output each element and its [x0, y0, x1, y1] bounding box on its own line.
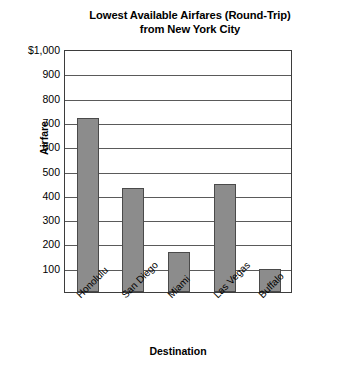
plot-area: [64, 50, 292, 293]
y-axis-tick-label: 600: [0, 142, 60, 153]
x-axis-tick-labels: HonoluluSan DiegoMiamiLas VegasBuffalo: [64, 293, 292, 353]
chart-title-line-2: from New York City: [40, 22, 340, 36]
x-axis-title: Destination: [64, 345, 292, 357]
y-axis-tick-label: 500: [0, 166, 60, 177]
bars: [65, 51, 291, 292]
y-axis-tick-label: 300: [0, 215, 60, 226]
y-axis-tick-label: 100: [0, 263, 60, 274]
y-axis-tick-label: 700: [0, 118, 60, 129]
y-axis-tick-label: 800: [0, 93, 60, 104]
bar: [77, 118, 99, 292]
y-axis-tick-label: $1,000: [0, 45, 60, 56]
chart-title: Lowest Available Airfares (Round-Trip) f…: [40, 8, 340, 36]
y-axis-tick-label: 900: [0, 69, 60, 80]
bar-chart: Lowest Available Airfares (Round-Trip) f…: [0, 0, 364, 372]
y-axis-tick-label: 400: [0, 191, 60, 202]
y-axis-tick-label: 200: [0, 239, 60, 250]
chart-title-line-1: Lowest Available Airfares (Round-Trip): [40, 8, 340, 22]
